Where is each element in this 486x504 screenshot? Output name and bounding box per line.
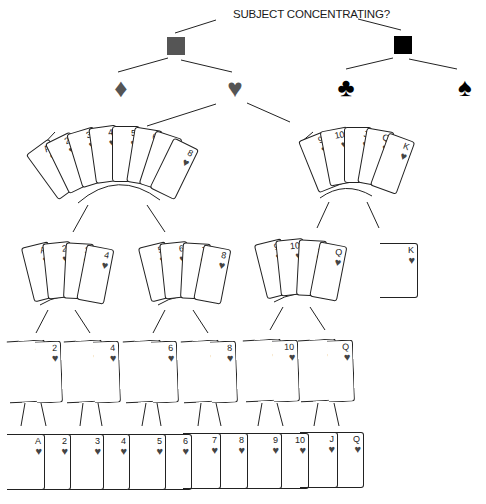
- heart-icon: ♥: [221, 75, 249, 101]
- title-label: SUBJECT CONCENTRATING?: [233, 8, 390, 20]
- card: 8♥: [222, 433, 248, 489]
- gray-square-node: [167, 37, 185, 55]
- card: Q♥: [327, 340, 355, 403]
- card: Q♥: [338, 432, 364, 488]
- spade-icon: ♠: [451, 74, 479, 100]
- card: 6♥: [151, 341, 179, 404]
- card: 2♥: [35, 341, 63, 404]
- card: 4♥: [104, 434, 130, 490]
- black-square-node: [394, 36, 412, 54]
- card: 9♥: [256, 433, 282, 489]
- card: 8♥: [210, 341, 238, 404]
- club-icon: ♣: [332, 74, 360, 100]
- card: A♥: [19, 434, 45, 490]
- card: 10♥: [283, 433, 309, 489]
- card: 7♥: [195, 433, 221, 489]
- card: 6♥: [166, 434, 192, 490]
- card: 3♥: [78, 434, 104, 490]
- card: 4♥: [93, 341, 121, 404]
- card: J♥: [312, 432, 338, 488]
- card-k: K♥: [392, 243, 418, 298]
- card: 5♥: [140, 434, 166, 490]
- card: 2♥: [45, 434, 71, 490]
- card: 10♥: [272, 340, 300, 403]
- decision-tree-diagram: SUBJECT CONCENTRATING? ♦ ♥ ♣ ♠ A♥ 2♥ 3♥ …: [0, 0, 486, 504]
- diamond-icon: ♦: [107, 75, 135, 101]
